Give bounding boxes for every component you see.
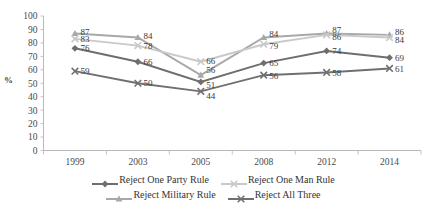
svg-text:76: 76 <box>80 43 90 53</box>
svg-text:50: 50 <box>28 79 38 89</box>
x-axis-ticks <box>44 151 422 155</box>
svg-text:66: 66 <box>143 57 153 67</box>
y-axis-label: % <box>4 75 13 85</box>
svg-text:65: 65 <box>269 58 279 68</box>
svg-text:74: 74 <box>332 46 342 56</box>
chart-legend: Reject One Party Rule Reject One Man Rul… <box>0 172 427 202</box>
svg-text:56: 56 <box>269 71 279 81</box>
svg-text:87: 87 <box>80 27 90 37</box>
svg-text:56: 56 <box>206 65 216 75</box>
legend-item-reject-one-party-rule[interactable]: Reject One Party Rule <box>92 174 209 185</box>
svg-text:70: 70 <box>28 52 38 62</box>
svg-text:2005: 2005 <box>191 157 210 167</box>
line-chart-svg: 7666516574698378667986848784568487865950… <box>0 0 427 172</box>
svg-text:87: 87 <box>332 25 342 35</box>
svg-text:51: 51 <box>206 80 215 90</box>
legend-item-reject-one-man-rule[interactable]: Reject One Man Rule <box>221 174 335 185</box>
svg-text:86: 86 <box>395 27 405 37</box>
legend-item-reject-all-three[interactable]: Reject All Three <box>228 189 321 200</box>
x-axis <box>44 151 422 155</box>
svg-text:79: 79 <box>269 41 279 51</box>
svg-text:2012: 2012 <box>317 157 336 167</box>
legend-marker-diamond-icon <box>92 175 118 185</box>
svg-text:78: 78 <box>143 41 153 51</box>
legend-marker-x-icon <box>228 190 254 200</box>
svg-text:80: 80 <box>28 38 38 48</box>
y-axis-tick-labels: 0102030405060708090100 <box>23 11 38 156</box>
svg-text:84: 84 <box>143 31 153 41</box>
svg-text:69: 69 <box>395 53 405 63</box>
legend-marker-x-icon <box>221 175 247 185</box>
svg-text:30: 30 <box>28 106 38 116</box>
svg-text:59: 59 <box>80 66 90 76</box>
svg-text:84: 84 <box>269 29 279 39</box>
x-axis-tick-labels: 199920032005200820122014 <box>65 157 399 167</box>
svg-text:10: 10 <box>28 132 38 142</box>
legend-label: Reject Military Rule <box>133 189 215 200</box>
svg-text:1999: 1999 <box>65 157 84 167</box>
svg-text:20: 20 <box>28 119 38 129</box>
svg-text:44: 44 <box>206 91 216 101</box>
svg-text:2003: 2003 <box>128 157 147 167</box>
legend-item-reject-military-rule[interactable]: Reject Military Rule <box>106 189 215 200</box>
legend-label: Reject One Man Rule <box>248 174 335 185</box>
series-lines <box>72 30 393 95</box>
svg-text:61: 61 <box>395 64 404 74</box>
svg-text:50: 50 <box>143 78 153 88</box>
chart-container: 7666516574698378667986848784568487865950… <box>0 0 427 218</box>
svg-text:90: 90 <box>28 25 38 35</box>
svg-text:58: 58 <box>332 68 342 78</box>
legend-row-1: Reject One Party Rule Reject One Man Rul… <box>0 172 427 187</box>
y-axis <box>41 16 44 151</box>
legend-label: Reject One Party Rule <box>119 174 209 185</box>
svg-text:60: 60 <box>28 65 38 75</box>
svg-text:0: 0 <box>33 146 38 156</box>
svg-text:2014: 2014 <box>380 157 399 167</box>
legend-row-2: Reject Military Rule Reject All Three <box>0 187 427 202</box>
legend-label: Reject All Three <box>255 189 321 200</box>
svg-text:2008: 2008 <box>254 157 273 167</box>
svg-text:40: 40 <box>28 92 38 102</box>
legend-marker-triangle-icon <box>106 190 132 200</box>
svg-text:100: 100 <box>23 11 38 21</box>
